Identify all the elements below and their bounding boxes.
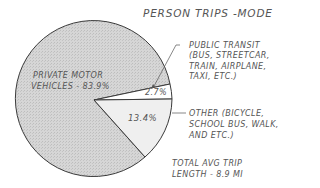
transit-percent: 2.7% xyxy=(145,88,167,98)
other-label-line3: AND ETC.) xyxy=(189,131,234,141)
total-trip-length-line2: LENGTH - 8.9 MI xyxy=(172,170,243,180)
transit-label-line1: PUBLIC TRANSIT xyxy=(189,41,260,51)
transit-label-line2: (BUS, STREETCAR, xyxy=(189,51,270,61)
other-label-line2: SCHOOL BUS, WALK, xyxy=(189,120,279,130)
transit-label-line4: TAXI, ETC.) xyxy=(189,72,237,82)
private-label-line1: PRIVATE MOTOR xyxy=(33,71,103,81)
private-label-line2: VEHICLES - 83.9% xyxy=(31,82,110,92)
other-label-line1: OTHER (BICYCLE, xyxy=(189,109,264,119)
total-trip-length-line1: TOTAL AVG TRIP xyxy=(172,159,242,169)
chart-title: PERSON TRIPS -MODE xyxy=(143,9,273,19)
transit-label-line3: TRAIN, AIRPLANE, xyxy=(189,62,266,72)
other-percent: 13.4% xyxy=(128,114,157,124)
